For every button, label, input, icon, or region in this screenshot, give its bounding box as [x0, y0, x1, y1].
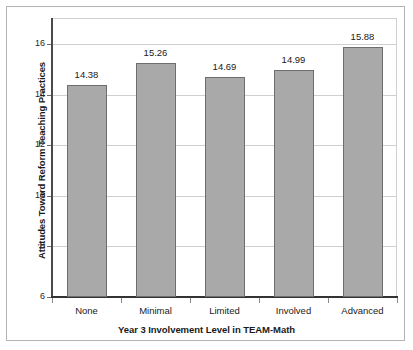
x-tick-mark — [397, 298, 398, 303]
y-tick-label: 12 — [5, 139, 45, 149]
bar-value-label: 14.69 — [195, 61, 255, 72]
x-tick-label: Advanced — [323, 305, 403, 316]
bar-value-label: 14.99 — [264, 54, 324, 65]
bar — [274, 70, 314, 297]
bar — [136, 63, 176, 297]
y-tick-label: 8 — [5, 240, 45, 250]
x-tick-label: Minimal — [116, 305, 196, 316]
bar — [205, 77, 245, 297]
y-tick-label: 6 — [5, 291, 45, 301]
x-tick-label: Involved — [254, 305, 334, 316]
x-tick-label: None — [47, 305, 127, 316]
x-tick-mark — [52, 298, 53, 303]
y-gridline — [52, 44, 397, 45]
bar-chart-figure: Attitudes Toward Reform Teaching Practic… — [0, 0, 413, 350]
x-tick-mark — [328, 298, 329, 303]
y-tick-label: 16 — [5, 38, 45, 48]
bar — [67, 85, 107, 297]
x-tick-label: Limited — [185, 305, 265, 316]
bar-value-label: 15.26 — [126, 47, 186, 58]
y-tick-label: 14 — [5, 89, 45, 99]
x-tick-mark — [121, 298, 122, 303]
y-axis-spine — [51, 18, 53, 298]
bar-value-label: 15.88 — [333, 31, 393, 42]
x-axis-title: Year 3 Involvement Level in TEAM-Math — [0, 324, 413, 335]
x-tick-mark — [259, 298, 260, 303]
x-tick-mark — [190, 298, 191, 303]
y-tick-label: 10 — [5, 190, 45, 200]
bar-value-label: 14.38 — [57, 69, 117, 80]
bar — [343, 47, 383, 297]
